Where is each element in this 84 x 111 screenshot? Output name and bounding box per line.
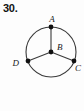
figure-root: 30. A B C D xyxy=(0,0,84,111)
point-label-B: B xyxy=(57,42,63,52)
point-label-A: A xyxy=(48,14,55,24)
radius-segment-BD xyxy=(28,52,51,61)
geometry-diagram: A B C D xyxy=(0,0,84,111)
point-D-dot xyxy=(26,59,31,64)
point-A-dot xyxy=(49,25,54,30)
radius-segment-BC xyxy=(51,52,74,61)
point-label-D: D xyxy=(12,58,20,68)
point-B-dot xyxy=(49,50,54,55)
point-label-C: C xyxy=(75,63,82,73)
